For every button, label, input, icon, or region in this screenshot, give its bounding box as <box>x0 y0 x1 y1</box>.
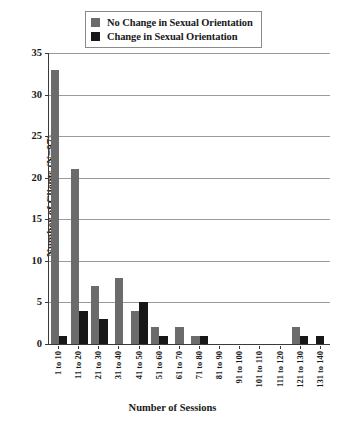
bar-bin <box>250 53 270 344</box>
x-tick-cell: 41 to 50 <box>129 346 149 398</box>
bar-bin <box>290 53 310 344</box>
x-tick-mark <box>78 346 79 349</box>
x-tick-cell: 91 to 100 <box>229 346 249 398</box>
x-tick-cell: 81 to 90 <box>209 346 229 398</box>
bar-gray <box>71 169 79 344</box>
x-tick-mark <box>320 346 321 349</box>
x-tick-label: 31 to 40 <box>114 351 123 379</box>
y-tick-label: 35 <box>32 48 43 59</box>
x-tick-mark <box>98 346 99 349</box>
x-tick-cell: 51 to 60 <box>149 346 169 398</box>
x-tick-cell: 101 to 110 <box>249 346 269 398</box>
bar-gray <box>175 327 183 344</box>
x-tick-mark <box>259 346 260 349</box>
legend-label-change: Change in Sexual Orientation <box>107 31 238 42</box>
bar-bin <box>149 53 169 344</box>
bar-gray <box>115 278 123 345</box>
bar-bin <box>230 53 250 344</box>
x-tick-cell: 61 to 70 <box>169 346 189 398</box>
x-tick-mark <box>239 346 240 349</box>
legend-item-change: Change in Sexual Orientation <box>91 30 253 43</box>
x-tick-label: 91 to 100 <box>235 351 244 384</box>
x-tick-label: 111 to 120 <box>275 351 284 387</box>
x-tick-mark <box>219 346 220 349</box>
legend-swatch-no-change <box>91 18 100 27</box>
y-tick-label: 20 <box>32 172 43 183</box>
x-tick-cell: 121 to 130 <box>290 346 310 398</box>
x-tick-label: 11 to 20 <box>74 351 83 379</box>
x-tick-mark <box>199 346 200 349</box>
bar-black <box>316 336 324 344</box>
bar-black <box>159 336 167 344</box>
bar-gray <box>292 327 300 344</box>
bar-bin <box>89 53 109 344</box>
y-tick-label: 0 <box>37 339 42 350</box>
x-tick-cell: 21 to 30 <box>88 346 108 398</box>
chart-legend: No Change in Sexual Orientation Change i… <box>85 11 262 48</box>
x-tick-cell: 111 to 120 <box>270 346 290 398</box>
bar-black <box>59 336 67 344</box>
bar-black <box>79 311 87 344</box>
bar-bin <box>210 53 230 344</box>
x-tick-mark <box>58 346 59 349</box>
x-tick-cell: 11 to 20 <box>68 346 88 398</box>
bar-black <box>99 319 107 344</box>
x-tick-label: 41 to 50 <box>134 351 143 379</box>
bar-bin <box>49 53 69 344</box>
bar-bin <box>310 53 330 344</box>
bar-black <box>139 302 147 344</box>
bar-bin <box>169 53 189 344</box>
x-tick-label: 51 to 60 <box>155 351 164 379</box>
bar-gray <box>91 286 99 344</box>
x-tick-mark <box>300 346 301 349</box>
x-tick-label: 1 to 10 <box>54 351 63 375</box>
legend-item-no-change: No Change in Sexual Orientation <box>91 16 253 29</box>
x-tick-label: 61 to 70 <box>175 351 184 379</box>
bar-gray <box>191 336 199 344</box>
y-tick-label: 10 <box>32 256 43 267</box>
y-tick-mark <box>45 344 49 345</box>
x-axis-title: Number of Sessions <box>0 402 345 413</box>
legend-label-no-change: No Change in Sexual Orientation <box>107 17 253 28</box>
x-tick-cell: 1 to 10 <box>48 346 68 398</box>
legend-swatch-change <box>91 32 100 41</box>
x-tick-mark <box>118 346 119 349</box>
x-tick-label: 101 to 110 <box>255 351 264 387</box>
x-axis-tick-labels: 1 to 1011 to 2021 to 3031 to 4041 to 505… <box>48 346 330 398</box>
x-tick-label: 71 to 80 <box>195 351 204 379</box>
x-tick-mark <box>280 346 281 349</box>
x-tick-mark <box>179 346 180 349</box>
bar-black <box>200 336 208 344</box>
bar-bin <box>190 53 210 344</box>
bar-gray <box>151 327 159 344</box>
bar-gray <box>51 70 59 344</box>
x-tick-mark <box>159 346 160 349</box>
y-tick-label: 5 <box>37 297 42 308</box>
x-tick-label: 81 to 90 <box>215 351 224 379</box>
x-tick-label: 121 to 130 <box>296 351 305 388</box>
y-tick-label: 25 <box>32 131 43 142</box>
bar-bin <box>109 53 129 344</box>
x-tick-mark <box>139 346 140 349</box>
x-tick-label: 131 to 140 <box>316 351 325 388</box>
bar-gray <box>131 311 139 344</box>
plot-area: 05101520253035 <box>48 53 330 345</box>
bar-bin <box>270 53 290 344</box>
bar-black <box>300 336 308 344</box>
y-tick-label: 15 <box>32 214 43 225</box>
bar-bin <box>129 53 149 344</box>
y-tick-label: 30 <box>32 89 43 100</box>
x-tick-label: 21 to 30 <box>94 351 103 379</box>
bar-bin <box>69 53 89 344</box>
x-tick-cell: 71 to 80 <box>189 346 209 398</box>
x-tick-cell: 131 to 140 <box>310 346 330 398</box>
bar-group <box>49 53 330 344</box>
x-tick-cell: 31 to 40 <box>108 346 128 398</box>
